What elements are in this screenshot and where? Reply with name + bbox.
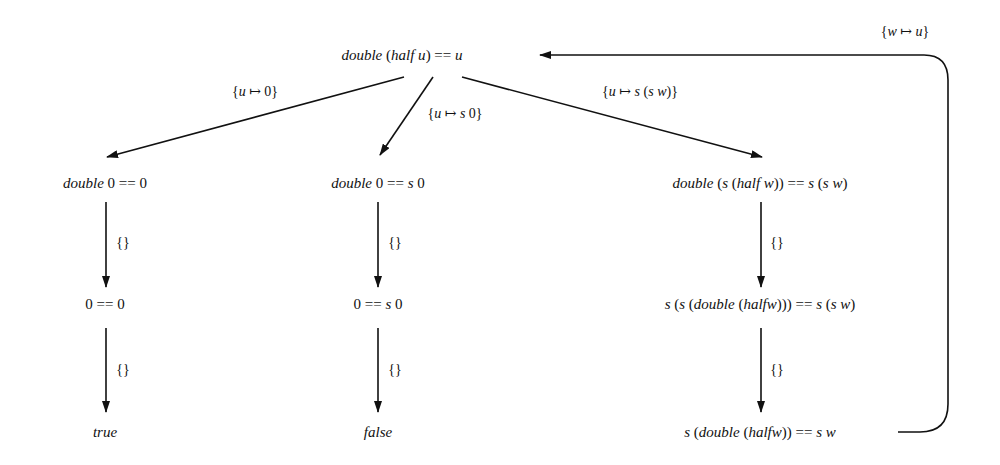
node-root: double (half u) == u [341, 48, 462, 63]
node-text: halfw [743, 296, 776, 312]
node-text: ( [740, 424, 749, 440]
edge-label-text: ↦ 0} [246, 84, 278, 99]
node-text: double [673, 175, 714, 191]
edge-label-l2-l3: {} [116, 363, 129, 377]
edge-root-to-middle [380, 77, 433, 155]
edge-label-text: )} [667, 84, 678, 99]
node-text: halfw [748, 424, 781, 440]
node-text: s w [831, 296, 851, 312]
edge-label-text: { [232, 84, 239, 99]
edge-label-text: ↦ [616, 84, 635, 99]
node-r2: s (s (double (halfw))) == s (s w) [665, 297, 856, 312]
node-l2: 0 == 0 [85, 297, 124, 312]
edge-label-text: {} [770, 235, 783, 250]
edge-back-to-root [540, 55, 948, 432]
node-text: double [63, 175, 104, 191]
edge-label-text: u [239, 84, 246, 99]
node-text: ))) == [777, 296, 816, 312]
node-text: ) [842, 175, 847, 191]
node-m3: false [364, 425, 392, 440]
node-r3: s (double (halfw)) == s w [684, 425, 836, 440]
edge-label-text: u [434, 106, 441, 121]
node-text: true [93, 424, 117, 440]
node-text: ( [670, 296, 679, 312]
node-text: ) [850, 296, 855, 312]
node-text: double [341, 47, 382, 63]
node-m2: 0 == s 0 [353, 297, 402, 312]
node-text: 0 == [353, 296, 385, 312]
edge-label-r2-r3: {} [770, 363, 783, 377]
node-text: ( [728, 175, 737, 191]
edge-label-text: u [916, 24, 923, 39]
node-text: half u [391, 47, 426, 63]
edge-label-r3-root: {w ↦ u} [881, 25, 930, 39]
node-text: 0 == 0 [85, 296, 124, 312]
node-text: 0 == 0 [104, 175, 147, 191]
node-text: )) == [774, 175, 808, 191]
node-text: s w [816, 424, 836, 440]
edge-label-root-m1: {u ↦ s 0} [427, 107, 482, 121]
node-text: ( [822, 296, 831, 312]
edge-label-text: s w [648, 84, 666, 99]
edge-label-text: 0} [465, 106, 482, 121]
edge-label-root-l1: {u ↦ 0} [232, 85, 278, 99]
edge-label-text: {} [770, 362, 783, 377]
node-text: 0 [414, 175, 425, 191]
node-r1: double (s (half w)) == s (s w) [673, 176, 848, 191]
node-text: 0 == [372, 175, 408, 191]
node-text: u [455, 47, 463, 63]
edge-label-l1-l2: {} [116, 236, 129, 250]
edge-label-text: } [923, 24, 930, 39]
node-text: ( [685, 296, 694, 312]
node-text: ( [735, 296, 744, 312]
node-text: s w [823, 175, 843, 191]
node-l3: true [93, 425, 117, 440]
node-text: ( [690, 424, 699, 440]
edge-label-root-r1: {u ↦ s (s w)} [602, 85, 678, 99]
node-m1: double 0 == s 0 [331, 176, 425, 191]
edge-label-text: ( [640, 84, 648, 99]
edge-label-text: w [887, 24, 896, 39]
edge-label-text: {} [116, 235, 129, 250]
node-text: )) == [782, 424, 816, 440]
edge-label-r1-r2: {} [770, 236, 783, 250]
edge-label-text: ↦ [441, 106, 460, 121]
node-text: double [331, 175, 372, 191]
node-text: ( [713, 175, 722, 191]
edge-label-text: u [609, 84, 616, 99]
node-text: double [694, 296, 735, 312]
edge-label-text: {} [388, 235, 401, 250]
node-text: double [699, 424, 740, 440]
node-text: ( [814, 175, 823, 191]
edge-label-text: ↦ [897, 24, 916, 39]
edge-label-m2-m3: {} [388, 363, 401, 377]
edge-label-text: { [602, 84, 609, 99]
edge-label-text: { [881, 24, 888, 39]
edge-label-text: {} [116, 362, 129, 377]
node-text: half w [737, 175, 774, 191]
node-text: false [364, 424, 392, 440]
edge-label-text: { [427, 106, 434, 121]
node-text: 0 [391, 296, 402, 312]
edges-layer [0, 0, 1000, 465]
edge-label-text: {} [388, 362, 401, 377]
node-text: ) == [426, 47, 455, 63]
edge-label-m1-m2: {} [388, 236, 401, 250]
node-l1: double 0 == 0 [63, 176, 147, 191]
node-text: ( [382, 47, 391, 63]
